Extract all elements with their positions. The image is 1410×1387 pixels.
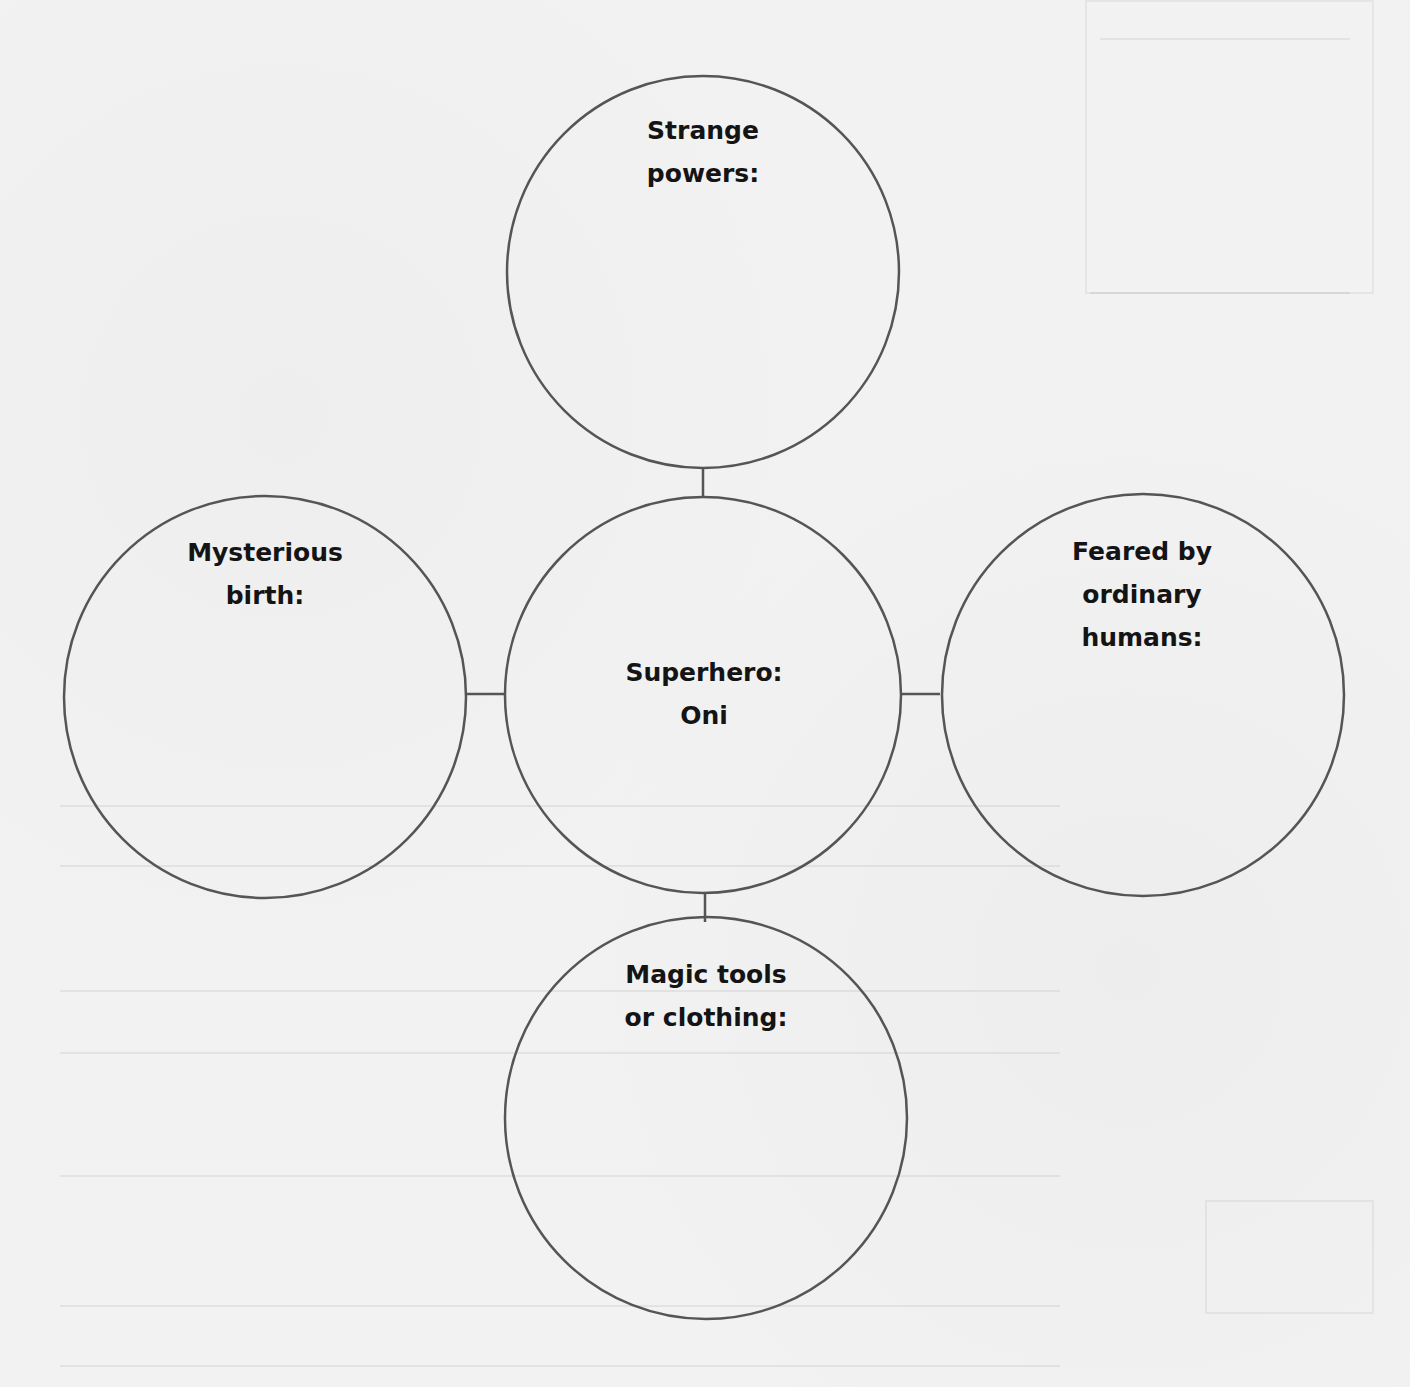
label-line: ordinary [1072,573,1212,616]
node-label-magic-tools: Magic tools or clothing: [625,953,788,1039]
label-line: Magic tools [625,953,788,996]
node-label-mysterious-birth: Mysterious birth: [187,531,343,617]
label-line: Superhero: [625,651,782,694]
worksheet-page: Strange powers: Superhero: Oni Mysteriou… [0,0,1410,1387]
node-label-feared-by-humans: Feared by ordinary humans: [1072,530,1212,659]
node-label-superhero: Superhero: Oni [625,651,782,737]
label-line: birth: [187,574,343,617]
label-line: humans: [1072,616,1212,659]
label-line: Feared by [1072,530,1212,573]
label-line: Strange [647,109,759,152]
label-line: Mysterious [187,531,343,574]
node-label-strange-powers: Strange powers: [647,109,759,195]
label-line: powers: [647,152,759,195]
label-line: Oni [625,694,782,737]
label-line: or clothing: [625,996,788,1039]
